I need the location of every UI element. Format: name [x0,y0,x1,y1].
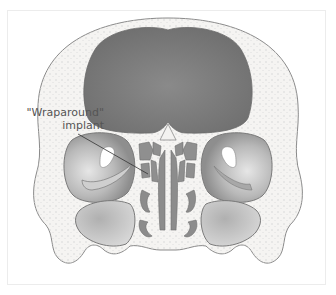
annotation-line-1: "Wraparound" [27,106,104,119]
skull-coronal-illustration [0,0,336,295]
right-orbit [201,133,272,203]
annotation-line-2: implant [27,119,104,132]
left-orbit [64,133,135,203]
cranial-cavity [84,27,252,133]
implant-annotation-label: "Wraparound" implant [27,106,104,132]
